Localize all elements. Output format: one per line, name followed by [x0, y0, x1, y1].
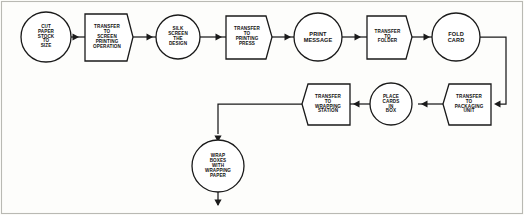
arrow-print-to-transfer-folder [355, 33, 362, 40]
node-silk-screen[interactable] [156, 15, 200, 59]
arrow-transfer-folder-to-fold [424, 33, 431, 40]
arrow-wrap-boxes-exit [214, 200, 221, 207]
flowchart-canvas: CUT PAPER STOCK TO SIZE TRANSFER TO SCRE… [0, 0, 524, 215]
arrow-packaging-to-place-cards [421, 100, 428, 107]
node-transfer-packaging[interactable] [443, 84, 491, 125]
arrow-cut-to-transfer-screen [73, 33, 80, 40]
node-print-message[interactable] [294, 13, 342, 61]
arrow-fold-to-packaging [494, 100, 501, 107]
node-transfer-screen[interactable] [85, 14, 133, 61]
node-cut-paper[interactable] [21, 12, 71, 62]
node-transfer-wrapping[interactable] [302, 84, 350, 125]
node-transfer-press[interactable] [226, 16, 272, 59]
flowchart-drawing [0, 0, 524, 215]
node-transfer-folder[interactable] [367, 16, 412, 59]
line-wrapping-to-wrap-boxes [218, 104, 302, 134]
arrow-silk-to-transfer-press [216, 33, 223, 40]
arrowheads [73, 33, 501, 206]
node-fold-card[interactable] [432, 13, 480, 61]
node-wrap-boxes[interactable] [192, 140, 244, 192]
arrow-transfer-press-to-print [285, 33, 292, 40]
arrow-place-cards-to-wrapping [353, 100, 360, 107]
arrow-transfer-screen-to-silk [147, 33, 154, 40]
node-place-cards[interactable] [370, 83, 412, 125]
